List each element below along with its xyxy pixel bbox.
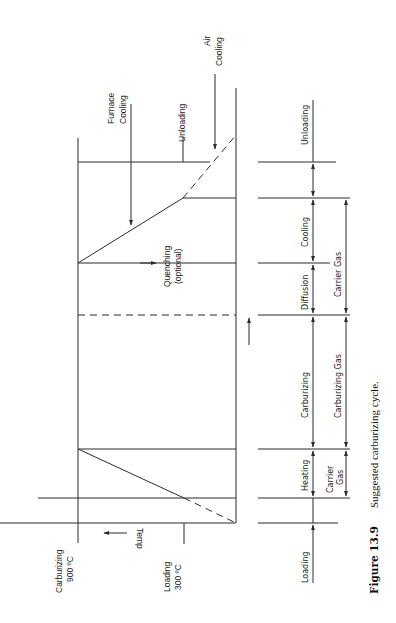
carburizing-level-name: Carburizing — [54, 549, 64, 593]
temperature-profile — [0, 74, 249, 544]
carburizing-level-value: 900 ºC — [65, 556, 75, 582]
figure-number: Figure 13.9 — [368, 526, 380, 594]
air-cooling-label-2: Cooling — [214, 37, 224, 66]
furnace-cooling-label-1: Furnace — [106, 93, 116, 124]
loading-level-name: Loading — [162, 561, 172, 592]
profile-labels: Furnace Cooling Air Cooling Unloading Qu… — [54, 35, 224, 593]
atmosphere-label-carrier-2: Gas — [336, 470, 345, 485]
air-cooling-label-1: Air — [202, 35, 212, 46]
stage-label-diffusion: Diffusion — [301, 275, 310, 310]
furnace-cooling-label-2: Cooling — [118, 95, 128, 124]
stage-label-unloading: Unloading — [301, 105, 310, 145]
stage-label-cooling: Cooling — [301, 217, 310, 247]
heating-ramp-dashed — [184, 498, 236, 523]
heating-ramp — [78, 449, 184, 498]
figure-caption: Figure 13.9 Suggested carburizing cycle. — [368, 381, 380, 594]
stage-timeline — [258, 100, 350, 583]
atmosphere-label-carrier-1: Carrier — [326, 465, 335, 493]
stage-label-heating: Heating — [301, 460, 310, 491]
stage-label-carburizing: Carburizing — [301, 372, 310, 418]
loading-level-value: 300 ºC — [173, 564, 183, 590]
figure-caption-text: Suggested carburizing cycle. — [368, 381, 380, 508]
stage-label-loading: Loading — [301, 551, 310, 583]
quenching-label-1: Quenching — [162, 246, 172, 287]
carburizing-cycle-diagram: Furnace Cooling Air Cooling Unloading Qu… — [0, 0, 396, 623]
unloading-profile-label: Unloading — [177, 103, 187, 142]
quenching-label-2: (optional) — [173, 248, 183, 284]
stage-labels: Loading Heating Carburizing Diffusion Co… — [301, 105, 345, 583]
temp-axis-label: Temp — [135, 528, 145, 549]
atmosphere-label-carburizing-gas: Carburizing Gas — [334, 354, 343, 418]
atmosphere-label-carrier-gas: Carrier Gas — [334, 252, 343, 297]
air-cooling-ramp-dashed — [183, 135, 236, 198]
